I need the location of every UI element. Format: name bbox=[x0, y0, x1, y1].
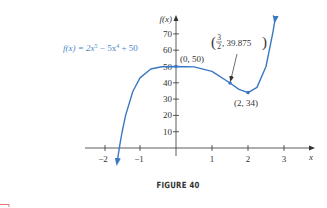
svg-text:(: ( bbox=[211, 34, 216, 51]
x-tick-label: −2 bbox=[98, 154, 108, 164]
corner-mark bbox=[0, 205, 9, 208]
point-1.5-39.875 bbox=[228, 81, 232, 85]
annotation-2-34: (2, 34) bbox=[234, 98, 258, 108]
figure-40-chart: −2 −1 1 2 3 x 10 20 30 40 50 60 70 f( bbox=[0, 0, 327, 207]
y-tick-label: 20 bbox=[163, 110, 173, 120]
svg-text:3: 3 bbox=[217, 33, 221, 42]
function-curve bbox=[117, 20, 275, 162]
figure-caption: FIGURE 40 bbox=[156, 180, 199, 190]
x-tick-label: −1 bbox=[134, 154, 144, 164]
x-tick-label: 1 bbox=[210, 154, 215, 164]
svg-text:, 39.875: , 39.875 bbox=[222, 38, 252, 48]
x-tick-label: 3 bbox=[282, 154, 287, 164]
y-tick-label: 10 bbox=[163, 127, 173, 137]
x-axis-label: x bbox=[308, 152, 313, 162]
annotation-3-2-39.875: ( 3 2 , 39.875 ) bbox=[211, 33, 267, 79]
y-tick-label: 60 bbox=[163, 45, 173, 55]
y-axis-label: f(x) bbox=[160, 14, 173, 24]
x-tick-label: 2 bbox=[246, 154, 251, 164]
point-2-34 bbox=[246, 91, 250, 95]
y-tick-label: 30 bbox=[163, 94, 173, 104]
y-tick-label: 40 bbox=[163, 78, 173, 88]
point-0-50 bbox=[174, 65, 178, 69]
annotation-0-50: (0, 50) bbox=[180, 54, 204, 64]
y-tick-label: 70 bbox=[163, 29, 173, 39]
function-formula: f(x) = 2x5 − 5x4 + 50 bbox=[63, 43, 138, 54]
svg-text:): ) bbox=[262, 34, 267, 51]
y-axis: 10 20 30 40 50 60 70 f(x) bbox=[160, 14, 180, 156]
svg-text:2: 2 bbox=[217, 42, 221, 51]
